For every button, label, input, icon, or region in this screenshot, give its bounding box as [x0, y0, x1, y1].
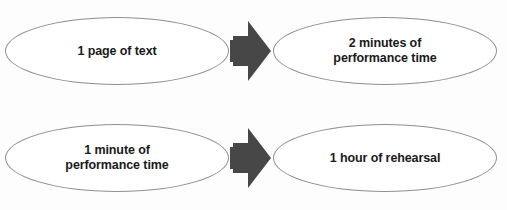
diagram-canvas: 1 page of text 2 minutes of performance …: [0, 0, 507, 210]
flow-row-1: 1 page of text 2 minutes of performance …: [0, 17, 507, 85]
node-source-1-label: 1 page of text: [51, 44, 182, 59]
node-target-2-label: 1 hour of rehearsal: [304, 151, 467, 166]
right-block-arrow-icon-1: [230, 19, 271, 83]
node-source-1[interactable]: 1 page of text: [5, 17, 229, 85]
flow-row-2: 1 minute of performance time 1 hour of r…: [0, 124, 507, 192]
right-block-arrow-icon-2: [230, 126, 271, 190]
node-target-1-label: 2 minutes of performance time: [307, 36, 462, 66]
node-target-2[interactable]: 1 hour of rehearsal: [273, 124, 497, 192]
node-target-1[interactable]: 2 minutes of performance time: [273, 17, 497, 85]
node-source-2[interactable]: 1 minute of performance time: [5, 124, 229, 192]
node-source-2-label: 1 minute of performance time: [39, 143, 194, 173]
